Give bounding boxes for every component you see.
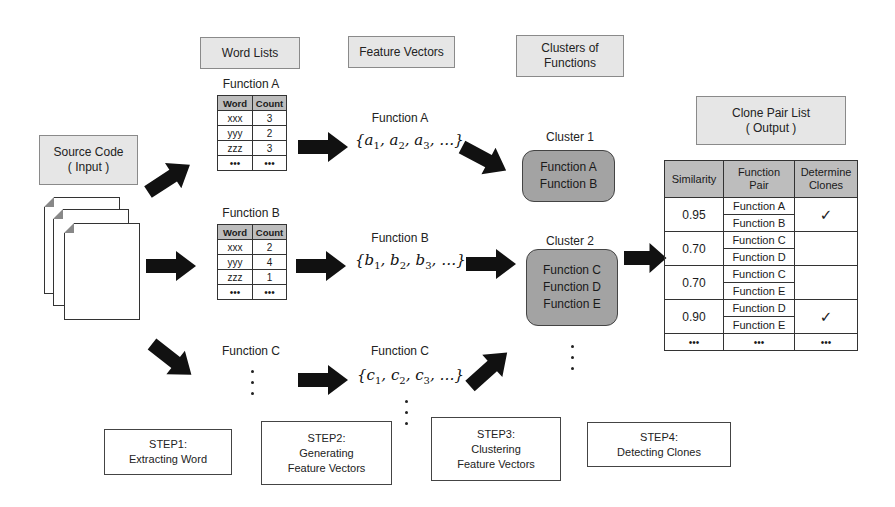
word-lists-header-text: Word Lists — [222, 46, 278, 61]
vector-c-formula: {c1, c2, c3, …} — [357, 366, 464, 386]
cluster-member: Function A — [540, 159, 597, 176]
count-cell: 1 — [253, 270, 287, 285]
cluster-1-box: Function A Function B — [522, 150, 615, 202]
pair-cell: Function D — [724, 249, 795, 266]
clusters-header-line1: Clusters of — [541, 41, 598, 56]
count-cell: 3 — [253, 141, 287, 156]
table-row: yyy4 — [218, 255, 287, 270]
wordlist-b-table: Word Count xxx2 yyy4 zzz1 •••••• — [217, 224, 287, 300]
table-row: yyy2 — [218, 126, 287, 141]
step-label: STEP1: — [149, 437, 187, 452]
arrow-wordlist-c-to-vector-c — [298, 365, 348, 395]
vector-b-title: Function B — [360, 231, 440, 245]
table-row: •••••• — [218, 156, 287, 171]
step-description: Clustering — [471, 442, 521, 457]
source-header-line2: ( Input ) — [68, 160, 109, 175]
word-cell: yyy — [218, 126, 253, 141]
vector-b-formula: {b1, b2, b3, …} — [355, 251, 466, 271]
word-cell: yyy — [218, 255, 253, 270]
step-description: Generating — [299, 446, 353, 461]
cluster-member: Function B — [540, 176, 597, 193]
arrow-wordlist-b-to-vector-b — [296, 251, 346, 281]
wordlist-c-title: Function C — [216, 344, 286, 358]
vector-c-continuation-dots — [405, 400, 409, 433]
pair-cell: Function D — [724, 300, 795, 317]
brace-open: { — [355, 131, 365, 149]
clone-pair-list-header: Clone Pair List ( Output ) — [696, 96, 846, 145]
wordlist-a-title: Function A — [216, 77, 286, 91]
arrow-source-to-wordlist-c — [143, 332, 201, 386]
clusters-of-functions-header: Clusters of Functions — [516, 35, 624, 77]
word-cell: ••• — [218, 156, 253, 171]
step-label: STEP4: — [640, 430, 678, 445]
table-row: 0.70 Function C — [665, 266, 858, 283]
clone-header-line2: ( Output ) — [746, 121, 797, 136]
wordlist-col-word: Word — [218, 225, 253, 240]
count-cell: 2 — [253, 126, 287, 141]
feature-vectors-header: Feature Vectors — [348, 36, 455, 68]
word-cell: zzz — [218, 270, 253, 285]
cluster-member: Function C — [543, 262, 601, 279]
similarity-cell: 0.70 — [665, 266, 724, 300]
clone-header-line1: Clone Pair List — [732, 106, 810, 121]
table-row: 0.90 Function D ✓ — [665, 300, 858, 317]
vector-a-formula: {a1, a2, a3, …} — [355, 131, 464, 151]
word-cell: zzz — [218, 141, 253, 156]
step-2-box: STEP2: Generating Feature Vectors — [261, 421, 392, 485]
ellipsis-cell: ••• — [795, 334, 858, 351]
wordlist-col-count: Count — [253, 96, 287, 111]
count-cell: 3 — [253, 111, 287, 126]
step-1-box: STEP1: Extracting Word — [104, 429, 232, 475]
step-description: Detecting Clones — [617, 445, 701, 460]
step-label: STEP3: — [477, 427, 515, 442]
arrow-wordlist-a-to-vector-a — [298, 132, 348, 162]
word-cell: ••• — [218, 285, 253, 300]
word-lists-header: Word Lists — [200, 37, 300, 69]
step-description: Extracting Word — [129, 452, 207, 467]
pair-cell: Function C — [724, 232, 795, 249]
cluster-2-title: Cluster 2 — [530, 234, 610, 248]
arrow-source-to-wordlist-a — [140, 152, 198, 204]
table-row: xxx2 — [218, 240, 287, 255]
checkmark-icon: ✓ — [795, 198, 858, 232]
cluster-member: Function E — [543, 296, 600, 313]
clusters-header-line2: Functions — [544, 56, 596, 71]
arrow-source-to-wordlist-b — [146, 251, 196, 281]
vector-c-title: Function C — [360, 344, 440, 358]
count-cell: ••• — [253, 156, 287, 171]
wordlist-c-continuation-dots — [251, 370, 255, 403]
word-cell: xxx — [218, 240, 253, 255]
table-row: zzz1 — [218, 270, 287, 285]
wordlist-b-title: Function B — [216, 206, 286, 220]
similarity-cell: 0.70 — [665, 232, 724, 266]
similarity-cell: 0.95 — [665, 198, 724, 232]
feature-vectors-header-text: Feature Vectors — [359, 45, 444, 60]
count-cell: ••• — [253, 285, 287, 300]
pair-cell: Function E — [724, 317, 795, 334]
arrow-vector-c-to-cluster-2 — [460, 341, 517, 397]
table-row: •••••• — [218, 285, 287, 300]
wordlist-col-word: Word — [218, 96, 253, 111]
pair-cell: Function B — [724, 215, 795, 232]
table-row: xxx3 — [218, 111, 287, 126]
cluster-2-box: Function C Function D Function E — [526, 249, 618, 326]
vector-a-title: Function A — [360, 111, 440, 125]
table-row: zzz3 — [218, 141, 287, 156]
pair-cell: Function E — [724, 283, 795, 300]
col-determine-clones: DetermineClones — [795, 161, 858, 198]
source-code-header: Source Code ( Input ) — [39, 135, 138, 185]
cluster-continuation-dots — [571, 345, 575, 378]
step-4-box: STEP4: Detecting Clones — [587, 422, 731, 467]
table-row: ••• ••• ••• — [665, 334, 858, 351]
arrow-cluster-to-clone-table — [624, 243, 667, 273]
clone-flag-cell — [795, 232, 858, 266]
count-cell: 4 — [253, 255, 287, 270]
step-description: Feature Vectors — [457, 457, 535, 472]
source-document-3 — [64, 223, 140, 320]
ellipsis-cell: ••• — [665, 334, 724, 351]
source-header-line1: Source Code — [53, 145, 123, 160]
pair-cell: Function C — [724, 266, 795, 283]
clone-flag-cell — [795, 266, 858, 300]
pair-cell: Function A — [724, 198, 795, 215]
count-cell: 2 — [253, 240, 287, 255]
